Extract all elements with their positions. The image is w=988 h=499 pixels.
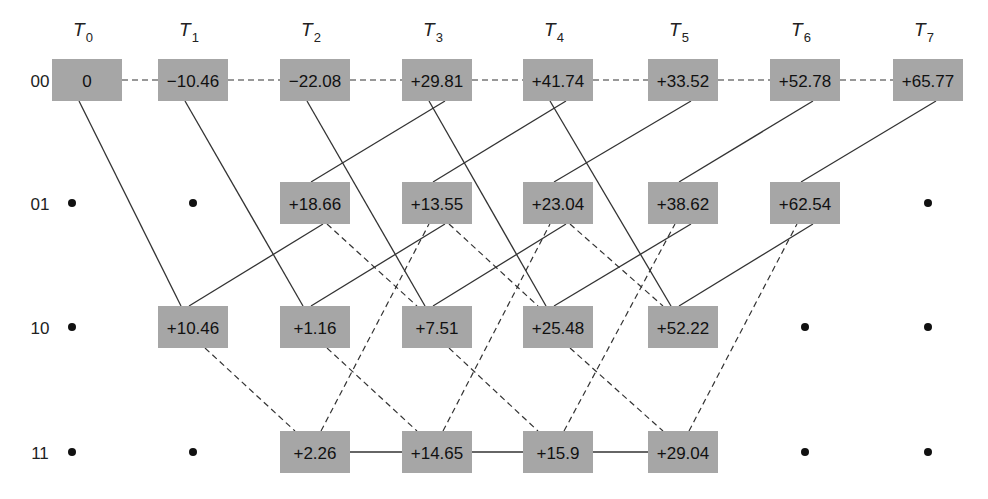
edge-10-to-01-t1	[189, 224, 323, 306]
time-label-subscript: 7	[927, 30, 934, 45]
state-labels: 00011011	[31, 72, 50, 463]
node-metric-value: +52.78	[779, 72, 831, 91]
node-metric-value: +33.52	[657, 72, 709, 91]
state-label-11: 11	[31, 444, 49, 463]
node-11-t3: +14.65	[402, 431, 472, 473]
edge-01-to-00-t3	[433, 101, 566, 182]
node-00-t5: +33.52	[648, 59, 718, 101]
state-label-01: 01	[31, 195, 50, 214]
time-label-subscript: 6	[804, 30, 811, 45]
empty-state-dot	[924, 199, 932, 207]
node-01-t6: +62.54	[770, 182, 840, 224]
node-01-t4: +23.04	[523, 182, 593, 224]
time-label-t3: T3	[423, 19, 443, 45]
state-label-10: 10	[31, 319, 50, 338]
node-01-t2: +18.66	[280, 182, 350, 224]
node-11-t4: +15.9	[523, 431, 593, 473]
node-metric-value: 0	[82, 72, 91, 91]
trellis-edges	[79, 80, 936, 452]
edge-00-to-10-t0	[79, 101, 181, 306]
node-11-t5: +29.04	[648, 431, 718, 473]
node-00-t7: +65.77	[893, 59, 963, 101]
edge-10-to-11-t1	[205, 348, 295, 431]
node-00-t4: +41.74	[523, 59, 593, 101]
edge-10-to-11-t3	[449, 348, 538, 431]
time-label-subscript: 5	[682, 30, 689, 45]
node-metric-value: +29.81	[411, 72, 463, 91]
node-metric-value: +65.77	[902, 72, 954, 91]
time-label-t0: T0	[73, 19, 93, 45]
edge-10-to-01-t2	[311, 224, 445, 306]
node-metric-value: +14.65	[411, 444, 463, 463]
time-label-t2: T2	[301, 19, 321, 45]
empty-state-dot	[68, 448, 76, 456]
node-metric-value: +10.46	[167, 319, 219, 338]
edge-01-to-00-t2	[311, 101, 445, 182]
node-metric-value: +29.04	[657, 444, 709, 463]
empty-state-dot	[68, 199, 76, 207]
node-00-t2: −22.08	[280, 59, 350, 101]
edge-01-to-10-t4	[570, 224, 663, 306]
node-metric-value: +62.54	[779, 195, 831, 214]
node-metric-value: +23.04	[532, 195, 584, 214]
node-metric-value: −22.08	[289, 72, 341, 91]
node-00-t0: 0	[52, 59, 122, 101]
node-10-t3: +7.51	[402, 306, 472, 348]
node-10-t2: +1.16	[280, 306, 350, 348]
time-label-subscript: 4	[557, 30, 564, 45]
time-label-subscript: 3	[436, 30, 443, 45]
time-label-subscript: 2	[314, 30, 321, 45]
node-00-t1: −10.46	[158, 59, 228, 101]
state-label-00: 00	[31, 72, 50, 91]
node-10-t5: +52.22	[648, 306, 718, 348]
edge-01-to-10-t2	[327, 224, 417, 306]
node-metric-value: +2.26	[293, 444, 336, 463]
node-metric-value: +7.51	[415, 319, 458, 338]
node-00-t3: +29.81	[402, 59, 472, 101]
node-10-t4: +25.48	[523, 306, 593, 348]
empty-state-dot	[924, 323, 932, 331]
edge-10-to-11-t4	[570, 348, 663, 431]
empty-state-dot	[68, 323, 76, 331]
edge-10-to-01-t4	[554, 224, 691, 306]
node-metric-value: −10.46	[167, 72, 219, 91]
node-metric-value: +52.22	[657, 319, 709, 338]
node-01-t3: +13.55	[402, 182, 472, 224]
empty-state-dot	[801, 323, 809, 331]
edge-10-to-01-t5	[679, 224, 813, 306]
empty-state-dot	[189, 199, 197, 207]
time-label-t6: T6	[791, 19, 811, 45]
empty-state-dot	[801, 448, 809, 456]
node-metric-value: +15.9	[536, 444, 579, 463]
node-metric-value: +13.55	[411, 195, 463, 214]
node-metric-value: +25.48	[532, 319, 584, 338]
empty-state-dot	[189, 448, 197, 456]
node-01-t5: +38.62	[648, 182, 718, 224]
node-10-t1: +10.46	[158, 306, 228, 348]
node-metric-value: +1.16	[293, 319, 336, 338]
edge-10-to-11-t2	[327, 348, 417, 431]
trellis-nodes: 0−10.46−22.08+29.81+41.74+33.52+52.78+65…	[52, 59, 963, 473]
edge-01-to-10-t3	[449, 224, 538, 306]
time-label-t7: T7	[914, 19, 934, 45]
node-metric-value: +41.74	[532, 72, 584, 91]
time-labels: T0T1T2T3T4T5T6T7	[73, 19, 934, 45]
node-00-t6: +52.78	[770, 59, 840, 101]
trellis-diagram: 0−10.46−22.08+29.81+41.74+33.52+52.78+65…	[0, 0, 988, 499]
edge-10-to-01-t3	[433, 224, 566, 306]
time-label-subscript: 1	[192, 30, 199, 45]
node-11-t2: +2.26	[280, 431, 350, 473]
time-label-t4: T4	[544, 19, 564, 45]
edge-01-to-00-t6	[801, 101, 936, 182]
time-label-t1: T1	[179, 19, 199, 45]
time-label-t5: T5	[669, 19, 689, 45]
time-label-subscript: 0	[86, 30, 93, 45]
node-metric-value: +38.62	[657, 195, 709, 214]
node-metric-value: +18.66	[289, 195, 341, 214]
empty-state-dot	[924, 448, 932, 456]
edge-01-to-00-t5	[679, 101, 813, 182]
